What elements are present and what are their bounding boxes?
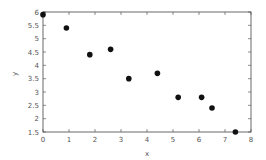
data-point: [87, 52, 93, 58]
y-tick-label: 4.5: [28, 49, 39, 57]
x-axis-ticks: 012345678: [41, 12, 253, 144]
x-tick-label: 1: [67, 136, 71, 144]
x-tick-label: 5: [171, 136, 175, 144]
data-point: [108, 47, 114, 53]
x-tick-label: 4: [145, 136, 150, 144]
x-tick-label: 6: [197, 136, 202, 144]
y-tick-label: 2.5: [28, 102, 39, 110]
data-point: [209, 105, 215, 111]
data-point: [40, 12, 46, 18]
data-point: [155, 71, 161, 77]
y-tick-label: 3: [35, 89, 39, 97]
data-point: [64, 25, 70, 31]
data-point: [199, 95, 205, 101]
data-point: [126, 76, 132, 82]
data-point: [175, 95, 181, 101]
data-points: [40, 12, 238, 135]
scatter-chart: 012345678 1.522.533.544.555.56 x y: [0, 0, 266, 160]
y-tick-label: 4: [35, 62, 40, 70]
y-axis-label: y: [11, 72, 19, 76]
y-tick-label: 5: [35, 35, 39, 43]
plot-border: [43, 12, 251, 132]
y-axis-ticks: 1.522.533.544.555.56: [28, 9, 251, 137]
y-tick-label: 1.5: [28, 129, 39, 137]
plot-frame: [43, 12, 251, 132]
y-tick-label: 2: [35, 115, 39, 123]
x-axis-label: x: [145, 150, 149, 158]
x-tick-label: 2: [93, 136, 97, 144]
x-tick-label: 7: [223, 136, 227, 144]
x-tick-label: 0: [41, 136, 45, 144]
y-tick-label: 3.5: [28, 75, 39, 83]
y-tick-label: 6: [35, 9, 40, 17]
x-tick-label: 8: [249, 136, 253, 144]
y-tick-label: 5.5: [28, 22, 39, 30]
data-point: [233, 129, 239, 135]
x-tick-label: 3: [119, 136, 123, 144]
